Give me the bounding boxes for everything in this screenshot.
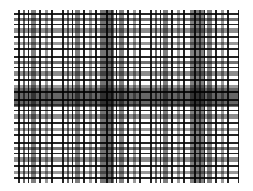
horizontal-dark-band	[14, 10, 239, 183]
plaid-texture-image	[14, 10, 239, 183]
